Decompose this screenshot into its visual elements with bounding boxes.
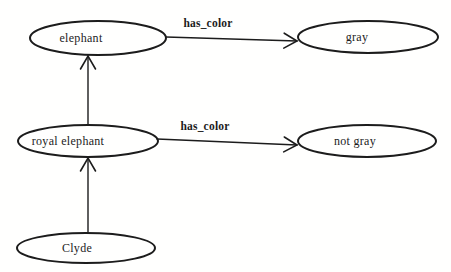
node-gray: gray xyxy=(298,21,438,53)
edge-label: has_color xyxy=(183,17,232,29)
node-label: elephant xyxy=(59,31,102,45)
edge-clyde-to-royal-elephant xyxy=(81,158,96,232)
node-label: gray xyxy=(346,30,369,44)
edge-royal-elephant-to-elephant xyxy=(81,56,96,125)
semantic-network-canvas: has_colorhas_colorelephantgrayroyal elep… xyxy=(0,0,451,272)
edge-label: has_color xyxy=(180,120,229,132)
edge-line xyxy=(166,37,297,41)
node-elephant: elephant xyxy=(30,21,166,55)
diagram-page: has_colorhas_colorelephantgrayroyal elep… xyxy=(0,0,451,272)
node-not-gray: not gray xyxy=(298,125,436,157)
node-label: royal elephant xyxy=(32,134,105,148)
edge-royal-elephant-to-not-gray: has_color xyxy=(157,120,297,152)
node-label: not gray xyxy=(334,134,376,148)
node-royal-elephant: royal elephant xyxy=(18,125,158,157)
edge-line xyxy=(157,139,297,145)
edge-elephant-to-gray: has_color xyxy=(166,17,297,48)
node-clyde: Clyde xyxy=(17,233,155,263)
node-label: Clyde xyxy=(62,241,92,255)
